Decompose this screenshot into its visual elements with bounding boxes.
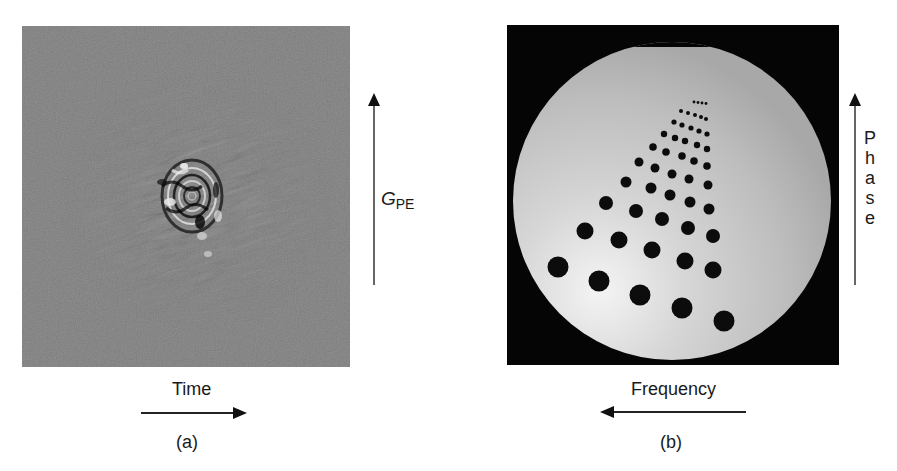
phase-arrow: [847, 92, 863, 288]
time-arrow: [139, 405, 249, 421]
phase-letter-e: e: [863, 208, 877, 228]
phase-letter-a: a: [863, 168, 877, 188]
phase-label: P h a s e: [863, 128, 877, 228]
phase-letter-h: h: [863, 148, 877, 168]
phase-letter-p: P: [863, 128, 877, 148]
kspace-image: [22, 26, 350, 367]
phase-letter-s: s: [863, 188, 877, 208]
phantom-disc: [507, 25, 839, 365]
frequency-label: Frequency: [631, 379, 716, 400]
gpe-arrow: [366, 92, 382, 288]
kspace-pattern: [22, 26, 350, 367]
gpe-label: GPE: [381, 188, 414, 212]
panel-a-caption: (a): [176, 432, 198, 453]
phantom-image: [507, 25, 839, 365]
panel-b-caption: (b): [660, 432, 682, 453]
gpe-label-sub: PE: [396, 196, 415, 212]
frequency-arrow: [598, 404, 750, 420]
gpe-label-main: G: [381, 188, 396, 209]
time-label: Time: [172, 379, 211, 400]
